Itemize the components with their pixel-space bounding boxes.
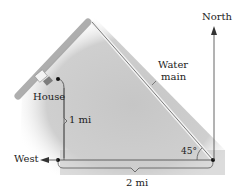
water-main-label-line2: main — [161, 72, 186, 82]
angle-label: 45° — [181, 147, 197, 156]
west-label: West — [14, 154, 39, 164]
house-label: House — [33, 92, 65, 102]
house-dot — [56, 77, 60, 81]
vertical-distance-label: 1 mi — [69, 115, 91, 125]
north-label: North — [202, 12, 232, 22]
horizontal-distance-label: 2 mi — [126, 178, 148, 188]
water-main-label-line1: Water — [158, 60, 188, 70]
